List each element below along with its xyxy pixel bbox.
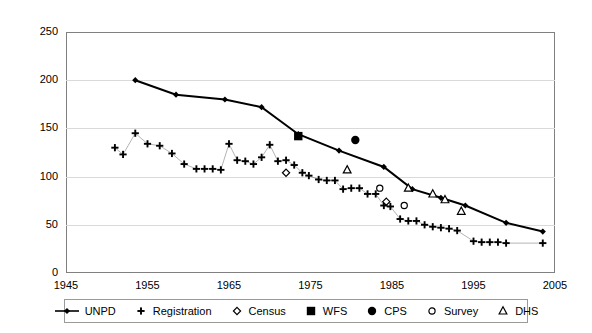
legend-item-wfs[interactable]: WFS [295, 305, 356, 317]
data-point-plus [413, 217, 420, 224]
data-series-layer [0, 0, 592, 333]
legend-item-registration[interactable]: Registration [125, 305, 221, 317]
legend-item-label: CPS [384, 305, 407, 317]
data-point-plus [494, 239, 501, 246]
data-point-plus [478, 239, 485, 246]
series-wfs [294, 132, 302, 140]
legend-item-label: UNPD [85, 305, 116, 317]
legend-marker-filled-circle [365, 305, 379, 317]
series-cps [351, 136, 359, 144]
data-point-plus [274, 158, 281, 165]
data-point-plus [250, 160, 257, 167]
data-point-plus [445, 225, 452, 232]
data-point-plus [305, 172, 312, 179]
legend-marker-line-filled-diamond [54, 305, 80, 317]
data-point-plus [119, 151, 126, 158]
chart-legend: UNPDRegistrationCensusWFSCPSSurveyDHS [64, 299, 528, 323]
data-point-filled-diamond [540, 228, 546, 234]
legend-item-cps[interactable]: CPS [356, 305, 416, 317]
data-point-plus [397, 215, 404, 222]
legend-item-census[interactable]: Census [221, 305, 295, 317]
data-point-plus [137, 307, 144, 314]
data-point-open-triangle [499, 307, 507, 314]
data-point-open-circle [401, 202, 407, 208]
data-point-open-diamond [233, 307, 240, 314]
data-point-filled-diamond [64, 308, 70, 314]
chart-root: 050100150200250 194519551965197519851995… [0, 0, 592, 333]
data-point-open-circle [377, 185, 383, 191]
data-point-filled-diamond [462, 202, 468, 208]
legend-marker-filled-square [304, 305, 318, 317]
legend-marker-plus [134, 305, 148, 317]
data-point-plus [470, 238, 477, 245]
data-point-plus [156, 142, 163, 149]
legend-item-label: Registration [153, 305, 212, 317]
data-point-plus [209, 165, 216, 172]
data-point-plus [111, 144, 118, 151]
series-census [282, 169, 389, 205]
legend-item-label: DHS [515, 305, 538, 317]
legend-item-label: Survey [444, 305, 478, 317]
legend-marker-open-diamond [230, 305, 244, 317]
legend-item-survey[interactable]: Survey [416, 305, 487, 317]
legend-item-dhs[interactable]: DHS [487, 305, 547, 317]
data-point-plus [348, 185, 355, 192]
data-point-plus [193, 165, 200, 172]
data-point-filled-circle [368, 307, 376, 315]
legend-item-label: WFS [323, 305, 347, 317]
legend-item-label: Census [249, 305, 286, 317]
data-point-plus [282, 157, 289, 164]
data-point-plus [539, 240, 546, 247]
data-point-plus [315, 176, 322, 183]
data-point-plus [225, 140, 232, 147]
data-point-plus [266, 141, 273, 148]
legend-marker-open-circle [425, 305, 439, 317]
data-point-plus [429, 223, 436, 230]
data-point-plus [356, 185, 363, 192]
data-point-plus [364, 190, 371, 197]
data-point-plus [242, 158, 249, 165]
legend-marker-open-triangle [496, 305, 510, 317]
data-point-filled-diamond [173, 92, 179, 98]
data-point-open-circle [429, 308, 435, 314]
data-point-plus [486, 239, 493, 246]
data-point-plus [234, 157, 241, 164]
data-point-filled-diamond [222, 96, 228, 102]
data-point-plus [437, 224, 444, 231]
data-point-plus [323, 177, 330, 184]
data-point-open-diamond [282, 169, 289, 176]
data-point-open-triangle [343, 166, 351, 173]
legend-item-unpd[interactable]: UNPD [45, 305, 125, 317]
series-unpd [132, 77, 546, 235]
data-point-filled-square [294, 132, 302, 140]
data-point-filled-diamond [503, 220, 509, 226]
data-point-plus [421, 221, 428, 228]
data-point-filled-circle [351, 136, 359, 144]
data-point-filled-diamond [336, 147, 342, 153]
data-point-plus [258, 154, 265, 161]
data-point-plus [454, 227, 461, 234]
data-point-plus [405, 217, 412, 224]
data-point-plus [503, 240, 510, 247]
data-point-plus [201, 165, 208, 172]
data-point-filled-square [307, 307, 315, 315]
data-point-open-triangle [429, 190, 437, 197]
data-point-open-triangle [457, 207, 465, 214]
data-point-filled-diamond [132, 77, 138, 83]
data-point-plus [217, 166, 224, 173]
